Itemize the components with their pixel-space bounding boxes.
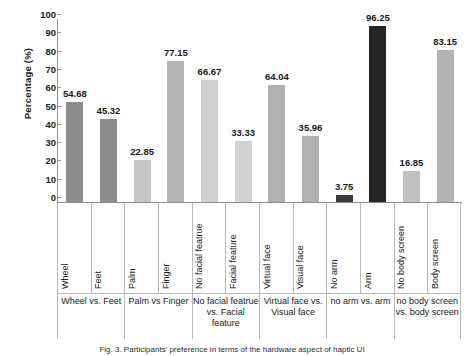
- bar: [201, 80, 218, 202]
- bar-value-label: 45.32: [87, 106, 131, 116]
- category-cell: Feet: [91, 203, 125, 293]
- y-tick-label: 40: [26, 120, 56, 130]
- bar-value-label: 35.96: [289, 123, 333, 133]
- category-cell: No body screen: [394, 203, 428, 293]
- bar: [100, 119, 117, 202]
- category-label: Arm: [364, 273, 373, 290]
- category-cell: Visual face: [293, 203, 327, 293]
- category-label: Facial feature: [229, 234, 238, 289]
- group-cell: No facial featrue vs. Facial feature: [192, 293, 259, 339]
- category-cell: Finger: [158, 203, 192, 293]
- bar: [336, 195, 353, 202]
- group-cell: Palm vs Finger: [124, 293, 191, 339]
- figure-container: Percentage (%) 1009080706050403020100 54…: [0, 0, 464, 356]
- bar-value-label: 33.33: [221, 128, 265, 138]
- y-tick-label: 30: [26, 138, 56, 148]
- bar-value-label: 77.15: [154, 48, 198, 58]
- category-label: No arm: [330, 259, 339, 289]
- bar-value-label: 16.85: [390, 158, 434, 168]
- category-label: Body screen: [431, 239, 440, 289]
- bar: [302, 136, 319, 202]
- bar-value-label: 66.67: [188, 67, 232, 77]
- category-cell: No facial featrue: [192, 203, 226, 293]
- bar-value-label: 96.25: [356, 13, 400, 23]
- category-cell: Palm: [124, 203, 158, 293]
- y-tick-label: 60: [26, 83, 56, 93]
- group-label: Virtual face vs. Visual face: [260, 296, 326, 318]
- y-tick-label: 70: [26, 65, 56, 75]
- category-label: No facial featrue: [195, 223, 204, 289]
- category-label: Feet: [94, 271, 103, 289]
- group-label: Palm vs Finger: [125, 296, 191, 307]
- bar-value-label: 83.15: [423, 37, 464, 47]
- bar: [437, 50, 454, 202]
- category-cell: Wheel: [57, 203, 91, 293]
- y-tick-label: 80: [26, 47, 56, 57]
- group-label: Wheel vs. Feet: [58, 296, 124, 307]
- y-tick-mark: [57, 14, 61, 15]
- group-cell: Virtual face vs. Visual face: [259, 293, 326, 339]
- category-label: Finger: [162, 263, 171, 289]
- y-tick-label: 20: [26, 156, 56, 166]
- category-label: Visual face: [296, 245, 305, 289]
- group-label-row: Wheel vs. FeetPalm vs FingerNo facial fe…: [57, 293, 462, 339]
- bar: [66, 102, 83, 202]
- bar: [403, 171, 420, 202]
- group-label: No facial featrue vs. Facial feature: [193, 296, 259, 329]
- group-cell: Wheel vs. Feet: [57, 293, 124, 339]
- category-cell: No arm: [326, 203, 360, 293]
- group-cell: no arm vs. arm: [326, 293, 393, 339]
- bar-value-label: 64.04: [255, 72, 299, 82]
- category-cell: Arm: [360, 203, 394, 293]
- bar: [268, 85, 285, 202]
- bar: [134, 160, 151, 202]
- y-tick-label: 10: [26, 175, 56, 185]
- category-label: Virtual face: [263, 244, 272, 289]
- category-cell: Body screen: [427, 203, 461, 293]
- plot-area: 54.6845.3222.8577.1566.6733.3364.0435.96…: [58, 19, 462, 202]
- category-label: Palm: [128, 268, 137, 289]
- y-tick-label: 100: [26, 10, 56, 20]
- group-label: no body screen vs. body screen: [395, 296, 460, 318]
- figure-caption: Fig. 3. Participants' preference in term…: [0, 344, 464, 356]
- group-label: no arm vs. arm: [327, 296, 393, 307]
- bar: [167, 61, 184, 202]
- category-label-row: WheelFeetPalmFingerNo facial featrueFaci…: [57, 203, 462, 293]
- bar-value-label: 22.85: [120, 147, 164, 157]
- y-tick-label: 50: [26, 102, 56, 112]
- y-tick-label: 0: [26, 193, 56, 203]
- category-label: No body screen: [397, 226, 406, 289]
- category-cell: Virtual face: [259, 203, 293, 293]
- y-axis-tick-labels: 1009080706050403020100: [26, 14, 56, 204]
- category-label: Wheel: [61, 263, 70, 289]
- bar-value-label: 54.68: [53, 89, 97, 99]
- group-cell: no body screen vs. body screen: [394, 293, 461, 339]
- bar-value-label: 3.75: [322, 182, 366, 192]
- category-cell: Facial feature: [225, 203, 259, 293]
- bar: [369, 26, 386, 202]
- bar: [235, 141, 252, 202]
- y-tick-label: 90: [26, 28, 56, 38]
